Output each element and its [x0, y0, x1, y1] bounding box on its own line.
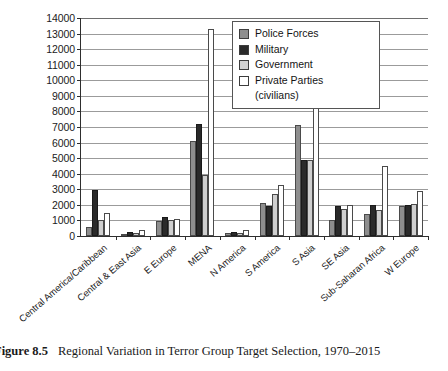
bar-group	[81, 18, 116, 236]
y-axis-tick-label: 9000	[52, 90, 75, 102]
chart-legend: Police Forces Military Government Privat…	[232, 21, 380, 109]
bar-group	[393, 18, 428, 236]
x-axis-tick	[185, 236, 186, 240]
y-axis-tick-label: 5000	[52, 152, 75, 164]
x-axis-tick	[393, 236, 394, 240]
bar-group	[185, 18, 220, 236]
x-axis-tick	[255, 236, 256, 240]
legend-item-private-parties: Private Parties	[239, 74, 373, 87]
x-axis-category-label: W Europe	[382, 242, 421, 278]
figure-container: 0100020003000400050006000700080009000100…	[0, 0, 448, 371]
x-axis-category-label: S America	[243, 242, 283, 278]
legend-item-government: Government	[239, 58, 373, 71]
y-axis-tick-label: 13000	[46, 28, 75, 40]
legend-swatch-icon	[239, 29, 249, 39]
y-axis-tick-label: 10000	[46, 74, 75, 86]
x-axis-tick	[220, 236, 221, 240]
bar	[417, 191, 423, 236]
y-axis-tick-label: 11000	[47, 59, 75, 71]
figure-caption: Figure 8.5Regional Variation in Terror G…	[0, 344, 448, 359]
y-axis-tick-label: 2000	[52, 199, 75, 211]
bar	[104, 213, 110, 236]
figure-caption-text: Regional Variation in Terror Group Targe…	[58, 344, 380, 358]
legend-label: Government	[255, 58, 313, 71]
y-axis-tick-label: 6000	[52, 137, 75, 149]
x-axis-category-label: S Asia	[289, 242, 316, 268]
x-axis-category-label: SE Asia	[319, 242, 351, 272]
y-axis-tick-label: 3000	[52, 183, 75, 195]
x-axis-category-label: Central America/Caribbean	[16, 242, 108, 324]
y-axis-tick-label: 14000	[46, 12, 75, 24]
bar	[243, 230, 249, 236]
bar-group	[150, 18, 185, 236]
bar-group	[116, 18, 151, 236]
x-axis-tick	[289, 236, 290, 240]
legend-item-police-forces: Police Forces	[239, 27, 373, 40]
figure-number: Figure 8.5	[0, 344, 48, 358]
bar	[139, 230, 145, 236]
bar	[208, 29, 214, 236]
bar	[347, 205, 353, 236]
y-axis-tick-label: 1000	[52, 214, 75, 226]
x-axis-category-label: E Europe	[142, 242, 179, 276]
legend-item-military: Military	[239, 43, 373, 56]
x-axis-tick	[359, 236, 360, 240]
x-axis-tick	[324, 236, 325, 240]
x-axis-category-label: Sub-Saharan Africa	[318, 242, 387, 304]
x-axis-category-label: MENA	[185, 242, 213, 268]
y-axis-tick-label: 12000	[46, 43, 75, 55]
legend-swatch-icon	[239, 76, 249, 86]
x-axis-category-label: N America	[208, 242, 248, 279]
x-axis-category-label: Central & East Asia	[75, 242, 143, 303]
bar	[382, 166, 388, 236]
y-axis-tick-label: 7000	[52, 121, 75, 133]
bar-chart: 0100020003000400050006000700080009000100…	[0, 0, 448, 340]
legend-label-sub: (civilians)	[255, 89, 373, 102]
legend-label: Military	[255, 43, 288, 56]
legend-swatch-icon	[239, 60, 249, 70]
y-axis-tick	[77, 236, 81, 237]
legend-label: Police Forces	[255, 27, 319, 40]
legend-swatch-icon	[239, 45, 249, 55]
bar	[174, 219, 180, 236]
x-axis-tick	[116, 236, 117, 240]
y-axis-tick-label: 8000	[52, 105, 75, 117]
x-axis-tick	[428, 236, 429, 240]
x-axis-tick	[150, 236, 151, 240]
y-axis-tick-label: 0	[69, 230, 75, 242]
y-axis-tick-label: 4000	[52, 168, 75, 180]
legend-label: Private Parties	[255, 74, 323, 87]
bar	[278, 185, 284, 236]
